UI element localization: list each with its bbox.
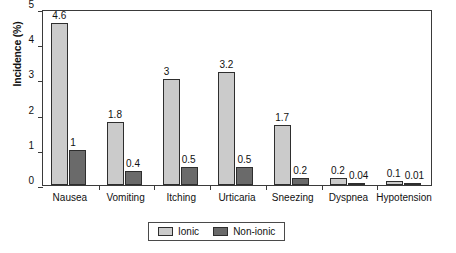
bar-ionic bbox=[51, 23, 68, 185]
bar-group: 3.20.5 bbox=[210, 11, 266, 185]
bar-ionic bbox=[218, 72, 235, 185]
x-axis-tick-mark bbox=[266, 185, 267, 190]
bar-non-ionic bbox=[236, 167, 253, 185]
bar-group: 0.10.01 bbox=[377, 11, 433, 185]
legend-label-non-ionic: Non-ionic bbox=[233, 226, 275, 237]
bar-value-label: 0.2 bbox=[331, 166, 345, 176]
plot-area: 0123454.611.80.430.53.20.51.70.20.20.040… bbox=[42, 10, 432, 186]
bar-non-ionic bbox=[348, 183, 365, 185]
x-axis-category-label: Dyspnea bbox=[321, 192, 377, 203]
x-axis-category-label: Itching bbox=[153, 192, 209, 203]
bar-non-ionic bbox=[292, 178, 309, 185]
legend-entry-ionic: Ionic bbox=[158, 226, 199, 237]
bar-non-ionic bbox=[69, 150, 86, 185]
bar-value-label: 0.04 bbox=[349, 171, 368, 181]
bar-value-label: 1.7 bbox=[275, 113, 289, 123]
bar-ionic bbox=[163, 79, 180, 185]
bar-value-label: 0.1 bbox=[387, 169, 401, 179]
legend-entry-non-ionic: Non-ionic bbox=[213, 226, 275, 237]
bar-value-label: 3.2 bbox=[219, 60, 233, 70]
bar-chart-figure: Incidence (%) 0123454.611.80.430.53.20.5… bbox=[0, 0, 456, 253]
chart-legend: Ionic Non-ionic bbox=[148, 222, 285, 241]
bar-value-label: 0.4 bbox=[126, 159, 140, 169]
bar-group: 1.80.4 bbox=[99, 11, 155, 185]
bar-group: 30.5 bbox=[154, 11, 210, 185]
bar-ionic bbox=[274, 125, 291, 185]
x-axis-category-label: Sneezing bbox=[265, 192, 321, 203]
bar-group: 4.61 bbox=[43, 11, 99, 185]
y-axis-title: Incidence (%) bbox=[11, 0, 23, 129]
bar-value-label: 4.6 bbox=[52, 11, 66, 21]
y-axis-tick-mark bbox=[38, 187, 43, 188]
bar-value-label: 1 bbox=[70, 138, 76, 148]
bar-ionic bbox=[107, 122, 124, 185]
legend-swatch-ionic bbox=[158, 227, 173, 236]
bar-non-ionic bbox=[125, 171, 142, 185]
x-axis-tick-mark bbox=[322, 185, 323, 190]
legend-swatch-non-ionic bbox=[213, 227, 228, 236]
bar-value-label: 3 bbox=[164, 67, 170, 77]
x-axis-category-label: Urticaria bbox=[209, 192, 265, 203]
bar-ionic bbox=[386, 181, 403, 185]
x-axis-category-label: Nausea bbox=[42, 192, 98, 203]
bar-value-label: 0.01 bbox=[405, 171, 424, 181]
bar-non-ionic bbox=[181, 167, 198, 185]
x-axis-tick-mark bbox=[99, 185, 100, 190]
x-axis-tick-mark bbox=[377, 185, 378, 190]
x-axis-category-label: Hypotension bbox=[376, 192, 432, 203]
x-axis-tick-mark bbox=[154, 185, 155, 190]
legend-label-ionic: Ionic bbox=[178, 226, 199, 237]
bar-group: 1.70.2 bbox=[266, 11, 322, 185]
bar-value-label: 0.5 bbox=[237, 155, 251, 165]
x-axis-category-label: Vomiting bbox=[98, 192, 154, 203]
bar-value-label: 0.5 bbox=[182, 155, 196, 165]
bar-value-label: 0.2 bbox=[293, 166, 307, 176]
bar-non-ionic bbox=[404, 183, 421, 185]
x-axis-tick-mark bbox=[210, 185, 211, 190]
bar-value-label: 1.8 bbox=[108, 110, 122, 120]
bar-group: 0.20.04 bbox=[322, 11, 378, 185]
bar-ionic bbox=[330, 178, 347, 185]
